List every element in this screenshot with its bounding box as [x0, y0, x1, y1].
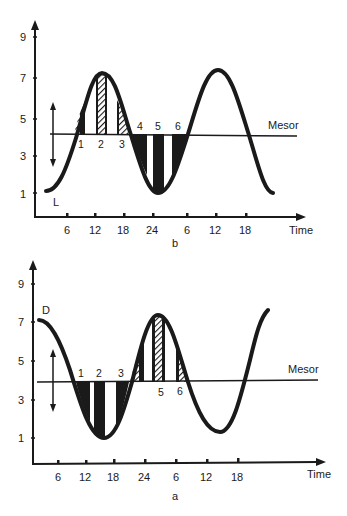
x-axis-title: Time — [289, 224, 313, 236]
segment-label: 6 — [175, 120, 181, 132]
segment-label: 3 — [119, 138, 125, 150]
figure: 9 7 5 3 1 6 12 18 24 6 12 18 Time b — [0, 0, 347, 516]
mesor-line — [37, 380, 318, 382]
y-axis-arrow-icon — [29, 260, 37, 270]
y-tick-label: 3 — [20, 150, 26, 162]
segment-label: 2 — [98, 138, 104, 150]
segment-label: 2 — [96, 367, 102, 379]
segment-label: 3 — [118, 367, 124, 379]
x-tick-label: 18 — [231, 471, 243, 483]
x-tick-label: 6 — [173, 471, 179, 483]
x-tick-label: 12 — [89, 224, 101, 236]
segment-label: 6 — [177, 385, 183, 397]
x-tick-label: 18 — [117, 224, 129, 236]
y-tick-label: 7 — [18, 316, 24, 328]
x-tick-label: 12 — [79, 471, 91, 483]
y-tick-label: 5 — [20, 113, 26, 125]
y-tick-label: 1 — [20, 188, 26, 200]
mesor-label: Mesor — [268, 119, 299, 131]
y-tick-label: 3 — [18, 394, 24, 406]
y-tick-label: 9 — [20, 31, 26, 43]
mesor-line — [50, 134, 297, 136]
y-tick-label: 7 — [20, 72, 26, 84]
x-tick-label: 6 — [184, 224, 190, 236]
x-tick-label: 6 — [64, 224, 70, 236]
mesor-label: Mesor — [288, 363, 319, 375]
amplitude-double-arrow-icon — [50, 349, 56, 412]
x-tick-label: 12 — [209, 224, 221, 236]
y-axis-arrow-icon — [31, 20, 39, 30]
x-tick-label: 12 — [200, 471, 212, 483]
x-axis-title: Time — [307, 468, 331, 480]
panel-caption: b — [172, 237, 178, 249]
y-tick-label: 1 — [18, 432, 24, 444]
panel-b: 9 7 5 3 1 6 12 18 24 6 12 18 Time b — [20, 20, 313, 249]
segment-label: 5 — [158, 386, 164, 398]
x-tick-label: 24 — [138, 471, 150, 483]
x-tick-label: 18 — [239, 224, 251, 236]
panel-caption: a — [172, 490, 179, 502]
segment-label: 4 — [137, 120, 143, 132]
y-tick-label: 9 — [18, 278, 24, 290]
segment-label: 1 — [78, 138, 84, 150]
curve-label: L — [53, 196, 59, 208]
x-axis-arrow-icon — [316, 458, 326, 466]
x-axis-arrow-icon — [296, 213, 306, 221]
x-tick-label: 6 — [55, 471, 61, 483]
curve-label: D — [42, 304, 50, 316]
segment-label: 5 — [155, 120, 161, 132]
segment-label: 1 — [78, 367, 84, 379]
panel-a: 9 7 5 3 1 6 12 18 24 6 12 18 Time a — [18, 260, 331, 502]
x-tick-label: 18 — [107, 471, 119, 483]
y-tick-label: 5 — [18, 355, 24, 367]
x-tick-label: 24 — [146, 224, 158, 236]
